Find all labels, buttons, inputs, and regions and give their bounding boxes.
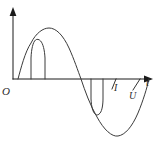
current-curve-label: I — [113, 82, 118, 93]
voltage-sine-curve — [18, 28, 149, 136]
current-pulse-positive-curve — [31, 39, 45, 79]
u-label-leader-line — [133, 79, 140, 90]
waveform-canvas: O I U t — [0, 0, 158, 144]
current-pulse-negative-curve — [91, 79, 103, 115]
voltage-curve-label: U — [129, 90, 137, 101]
y-axis-arrowhead-icon — [10, 7, 17, 16]
origin-label: O — [2, 85, 10, 97]
waveform-figure: O I U t — [0, 0, 158, 144]
